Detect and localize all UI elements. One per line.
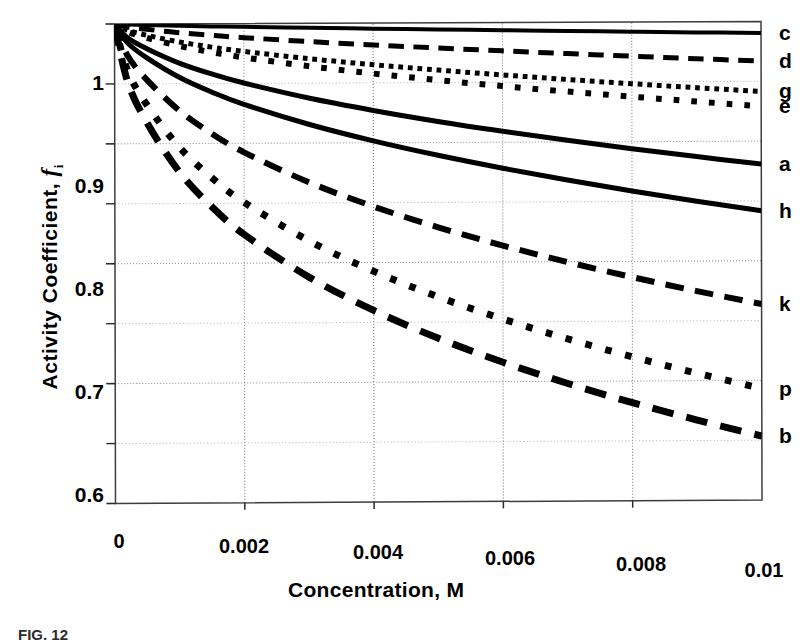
x-tick-label-0p006: 0.006 xyxy=(485,547,535,570)
x-axis-title: Concentration, M xyxy=(288,578,464,602)
series-label-p: p xyxy=(779,378,792,399)
x-axis-tick-labels: 0 0.002 0.004 0.006 0.008 0.01 xyxy=(0,0,810,641)
series-label-d: d xyxy=(779,50,792,71)
series-label-a: a xyxy=(779,153,791,174)
x-tick-label-0p002: 0.002 xyxy=(219,535,269,558)
x-tick-label-0p008: 0.008 xyxy=(616,553,666,576)
x-tick-label-0: 0 xyxy=(113,530,124,553)
series-label-e: e xyxy=(779,95,791,116)
x-tick-label-0p004: 0.004 xyxy=(353,541,403,564)
series-label-h: h xyxy=(779,200,792,221)
figure-container: Activity Coefficient, fi 1 0.9 0.8 0.7 0… xyxy=(0,0,810,641)
series-label-b: b xyxy=(779,425,792,446)
figure-caption: FIG. 12 xyxy=(18,626,68,641)
series-label-c: c xyxy=(779,22,791,43)
series-label-k: k xyxy=(779,293,791,314)
x-tick-label-0p01: 0.01 xyxy=(745,559,784,582)
